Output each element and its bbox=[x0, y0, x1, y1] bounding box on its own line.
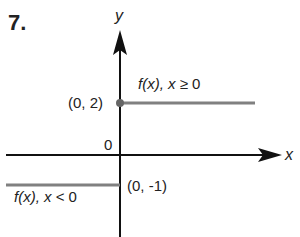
x-axis-label: x bbox=[285, 147, 293, 163]
lower-val: 0 bbox=[69, 188, 77, 205]
lower-var: x bbox=[44, 188, 52, 205]
lower-rel: < bbox=[56, 188, 65, 205]
upper-point-label: (0, 2) bbox=[68, 95, 103, 110]
upper-var: x bbox=[168, 75, 176, 92]
lower-piece-label: f(x), x < 0 bbox=[14, 189, 77, 204]
origin-label: 0 bbox=[104, 137, 112, 152]
lower-f: f(x), bbox=[14, 188, 40, 205]
upper-piece-label: f(x), x ≥ 0 bbox=[138, 76, 200, 91]
lower-point-label: (0, -1) bbox=[127, 178, 167, 193]
upper-rel: ≥ bbox=[180, 75, 188, 92]
upper-point-dot bbox=[116, 99, 124, 107]
upper-val: 0 bbox=[192, 75, 200, 92]
y-axis-label: y bbox=[115, 8, 123, 24]
upper-f: f(x), bbox=[138, 75, 164, 92]
